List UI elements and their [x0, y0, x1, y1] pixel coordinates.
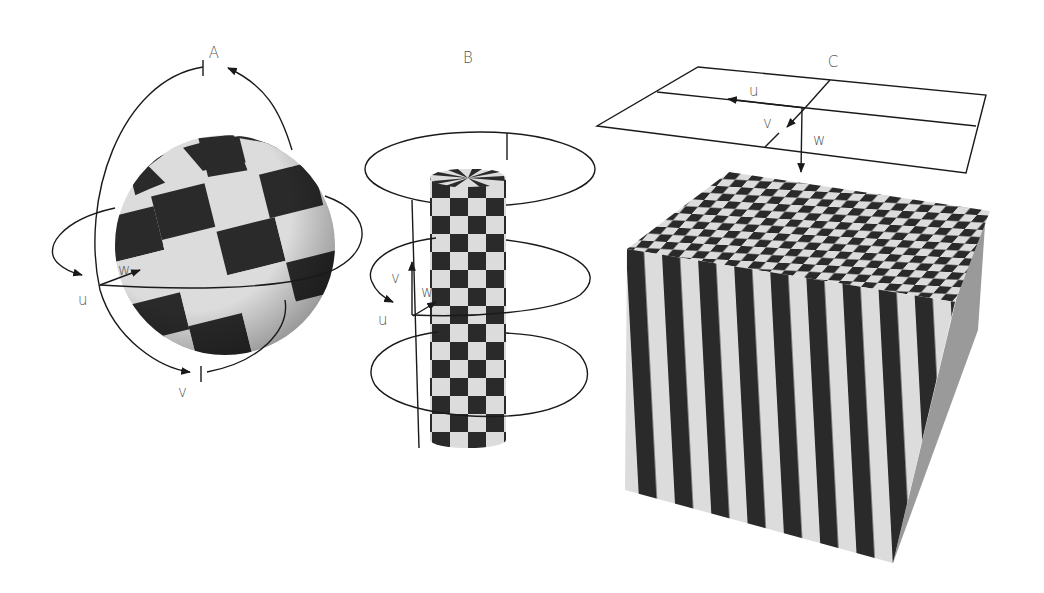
checker-cube [625, 172, 990, 563]
label-w-b: w [421, 283, 433, 301]
plane-midline-h [657, 92, 976, 126]
projection-plane [597, 67, 986, 173]
label-w-c: w [813, 131, 825, 149]
label-v-b: v [391, 269, 400, 287]
label-u-b: u [378, 311, 388, 329]
label-v: v [178, 383, 187, 401]
label-w: w [118, 261, 130, 279]
panel-b: B [365, 49, 595, 460]
panel-c-title: C [828, 53, 838, 71]
panel-c: C u v w [597, 53, 990, 563]
u-arc-left [52, 208, 115, 275]
panel-b-title: B [463, 49, 473, 67]
label-u-c: u [749, 82, 759, 100]
checker-sphere [87, 112, 360, 388]
projection-diagram: A [0, 0, 1044, 593]
plane-midline-v-bottom [765, 133, 779, 147]
v-axis-b [412, 200, 419, 448]
plane-midline-v-top [805, 80, 830, 108]
panel-a-title: A [209, 44, 219, 62]
label-u: u [78, 291, 88, 309]
label-v-c: v [763, 114, 772, 132]
w-arrow-c [801, 108, 802, 172]
u-arrow-c [728, 99, 805, 108]
panel-a: A [52, 44, 362, 401]
